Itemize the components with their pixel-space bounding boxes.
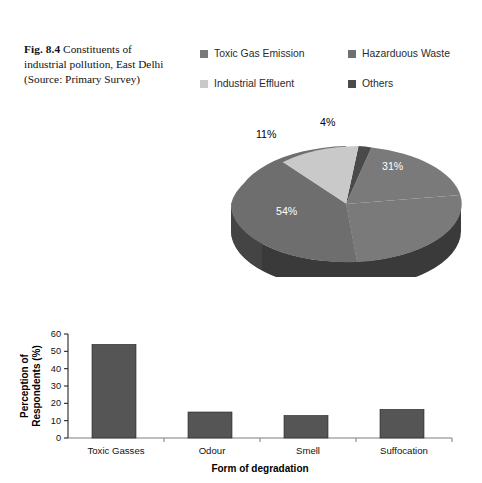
pie-label-toxic-gas-emission: 31% <box>382 160 403 172</box>
y-tick-label: 30 <box>51 381 61 391</box>
figure-caption: Fig. 8.4 Constituents of industrial poll… <box>24 42 174 87</box>
bar-smell <box>284 416 328 439</box>
y-tick-label: 0 <box>56 433 61 443</box>
x-axis-category-labels: Toxic Gasses Odour Smell Suffocation <box>87 445 427 456</box>
pie-label-hazarduous-waste: 54% <box>276 205 297 217</box>
category-label-odour: Odour <box>199 445 226 456</box>
bar-series <box>92 344 424 438</box>
bar-chart-svg: 0 10 20 30 40 50 60 Toxic Gasses Odour S… <box>16 326 466 476</box>
category-label-smell: Smell <box>296 445 320 456</box>
legend-swatch-icon <box>200 80 208 88</box>
legend-item-label: Toxic Gas Emission <box>214 48 305 59</box>
y-axis-title-line1: Perception of <box>19 353 30 418</box>
category-label-toxic-gasses: Toxic Gasses <box>87 445 144 456</box>
y-axis-title: Perception of Respondents (%) <box>19 345 42 427</box>
bar-toxic-gasses <box>92 344 136 438</box>
pie-label-others: 4% <box>320 116 335 128</box>
legend-swatch-icon <box>200 50 208 58</box>
legend-item-toxic-gas-emission: Toxic Gas Emission <box>200 48 348 59</box>
y-axis-title-line2: Respondents (%) <box>31 345 42 427</box>
legend-item-label: Industrial Effluent <box>214 78 294 89</box>
legend-item-label: Others <box>362 78 393 89</box>
pie-legend: Toxic Gas Emission Hazarduous Waste Indu… <box>200 48 472 89</box>
y-axis-ticks <box>64 334 68 438</box>
bar-odour <box>188 412 232 438</box>
bar-chart: 0 10 20 30 40 50 60 Toxic Gasses Odour S… <box>16 326 466 476</box>
y-tick-label: 20 <box>51 398 61 408</box>
legend-swatch-icon <box>348 80 356 88</box>
legend-swatch-icon <box>348 50 356 58</box>
pie-chart: 11% 4% 31% 54% <box>222 112 470 277</box>
y-tick-label: 60 <box>51 329 61 339</box>
legend-item-hazarduous-waste: Hazarduous Waste <box>348 48 472 59</box>
category-label-suffocation: Suffocation <box>380 445 428 456</box>
y-tick-label: 40 <box>51 364 61 374</box>
x-axis-title: Form of degradation <box>211 463 308 474</box>
figure-number: Fig. 8.4 <box>24 43 60 55</box>
x-axis-category-ticks <box>164 438 452 442</box>
y-axis-tick-labels: 0 10 20 30 40 50 60 <box>51 329 61 443</box>
pie-slices <box>231 146 462 262</box>
legend-item-label: Hazarduous Waste <box>362 48 450 59</box>
bar-suffocation <box>380 409 424 438</box>
y-tick-label: 50 <box>51 346 61 356</box>
y-tick-label: 10 <box>51 416 61 426</box>
pie-label-industrial-effluent: 11% <box>256 128 276 140</box>
legend-item-others: Others <box>348 78 472 89</box>
legend-item-industrial-effluent: Industrial Effluent <box>200 78 348 89</box>
